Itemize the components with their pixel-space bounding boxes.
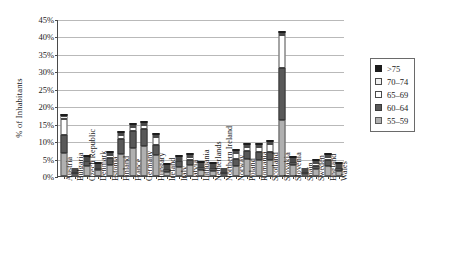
chart-legend: >7570–7465–6960–6455–59 xyxy=(370,58,415,132)
legend-swatch-icon xyxy=(375,91,382,98)
y-axis-tick-label: 20% xyxy=(38,102,54,112)
bar-segment xyxy=(129,131,136,148)
legend-label: >75 xyxy=(387,64,400,74)
plot-area: 0%5%10%15%20%25%30%35%40%45% AustriaBulg… xyxy=(57,20,344,177)
bar-slot: Hungary xyxy=(150,20,161,176)
bar-slot: Germany xyxy=(138,20,149,176)
bar-segment xyxy=(60,135,67,153)
bar-slot: Norway xyxy=(230,20,241,176)
legend-label: 60–64 xyxy=(387,103,408,113)
legend-swatch-icon xyxy=(375,104,382,111)
y-axis-tick-mark xyxy=(55,177,58,178)
bar-slot: Wales xyxy=(334,20,345,176)
bar-slot: Spain xyxy=(299,20,310,176)
y-axis-tick-label: 25% xyxy=(38,85,54,95)
bar-slot: Lithuania xyxy=(196,20,207,176)
legend-item[interactable]: 60–64 xyxy=(375,101,408,114)
bar-slot: Latvia xyxy=(184,20,195,176)
bar-slot: Estonia xyxy=(104,20,115,176)
bar-slot: France xyxy=(127,20,138,176)
bar-group: AustriaBulgariaCzech RepublicDenmarkEsto… xyxy=(58,20,344,176)
bar-slot: Ireland xyxy=(161,20,172,176)
bar-slot: Denmark xyxy=(92,20,103,176)
x-axis-tick-label: Wales xyxy=(340,161,349,181)
bar-slot: Poland xyxy=(242,20,253,176)
y-axis-title: % of Inhabitants xyxy=(14,0,24,50)
y-axis-title-text: % of Inhabitants xyxy=(14,48,24,168)
bar-slot: Czech Republic xyxy=(81,20,92,176)
bar-slot: Northern Ireland xyxy=(219,20,230,176)
bar-slot: Romania xyxy=(253,20,264,176)
bar-slot: Finland xyxy=(115,20,126,176)
legend-swatch-icon xyxy=(375,65,382,72)
legend-label: 65–69 xyxy=(387,90,408,100)
legend-item[interactable]: >75 xyxy=(375,62,408,75)
bar-slot: Austria xyxy=(58,20,69,176)
bar-segment xyxy=(141,129,148,146)
bar-segment xyxy=(60,119,67,135)
legend-swatch-icon xyxy=(375,117,382,124)
bar-slot: England xyxy=(322,20,333,176)
bar-segment xyxy=(278,68,285,120)
bar-segment xyxy=(152,137,159,145)
bar-segment xyxy=(267,144,274,152)
bar-slot: Slovakia xyxy=(276,20,287,176)
bar-slot: Netherlands xyxy=(207,20,218,176)
bar-slot: Slovenia xyxy=(288,20,299,176)
legend-label: 55–59 xyxy=(387,116,408,126)
y-axis-tick-label: 35% xyxy=(38,50,54,60)
legend-label: 70–74 xyxy=(387,77,408,87)
legend-swatch-icon xyxy=(375,78,382,85)
bar-slot: Scotland xyxy=(265,20,276,176)
bar-slot: Italy xyxy=(173,20,184,176)
y-axis-tick-label: 30% xyxy=(38,67,54,77)
y-axis-tick-label: 45% xyxy=(38,15,54,25)
legend-item[interactable]: 65–69 xyxy=(375,88,408,101)
y-axis-tick-label: 0% xyxy=(43,172,54,182)
legend-item[interactable]: 70–74 xyxy=(375,75,408,88)
bar-segment xyxy=(278,35,285,68)
bar-slot: Bulgaria xyxy=(69,20,80,176)
bar-slot: Sweden xyxy=(311,20,322,176)
legend-item[interactable]: 55–59 xyxy=(375,114,408,127)
stacked-bar-chart: % of Inhabitants 0%5%10%15%20%25%30%35%4… xyxy=(0,0,470,270)
y-axis-tick-label: 5% xyxy=(43,155,54,165)
y-axis-tick-label: 15% xyxy=(38,120,54,130)
y-axis-tick-label: 40% xyxy=(38,32,54,42)
bar-segment xyxy=(118,139,125,154)
y-axis-tick-label: 10% xyxy=(38,137,54,147)
